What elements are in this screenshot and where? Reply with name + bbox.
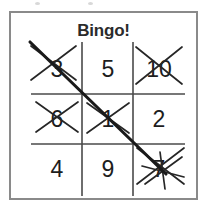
grid-cell[interactable]: 6 bbox=[32, 94, 82, 144]
grid-cell[interactable]: 7 bbox=[134, 144, 184, 194]
grid-cell[interactable]: 10 bbox=[134, 44, 184, 94]
grid-cell[interactable]: 5 bbox=[83, 44, 133, 94]
grid-cell[interactable]: 2 bbox=[134, 94, 184, 144]
cell-value: 5 bbox=[102, 56, 115, 83]
grid-cell[interactable]: 9 bbox=[83, 144, 133, 194]
cell-value: 2 bbox=[153, 106, 166, 133]
bingo-grid: 3 5 10 6 1 2 4 9 7 bbox=[32, 44, 184, 194]
cell-value: 1 bbox=[102, 106, 115, 133]
bingo-card: Bingo! 3 5 10 6 1 2 4 bbox=[9, 11, 198, 200]
cell-value: 9 bbox=[102, 156, 115, 183]
cell-value: 6 bbox=[51, 106, 64, 133]
cell-value: 10 bbox=[146, 56, 172, 83]
cell-value: 3 bbox=[51, 56, 64, 83]
grid-cell[interactable]: 4 bbox=[32, 144, 82, 194]
cell-value: 4 bbox=[51, 156, 64, 183]
cell-value: 7 bbox=[153, 156, 166, 183]
grid-cell[interactable]: 1 bbox=[83, 94, 133, 144]
scan-artifact-dot bbox=[88, 2, 93, 5]
grid-cell[interactable]: 3 bbox=[32, 44, 82, 94]
page-title: Bingo! bbox=[11, 22, 196, 39]
scan-artifact-dot bbox=[35, 2, 40, 5]
